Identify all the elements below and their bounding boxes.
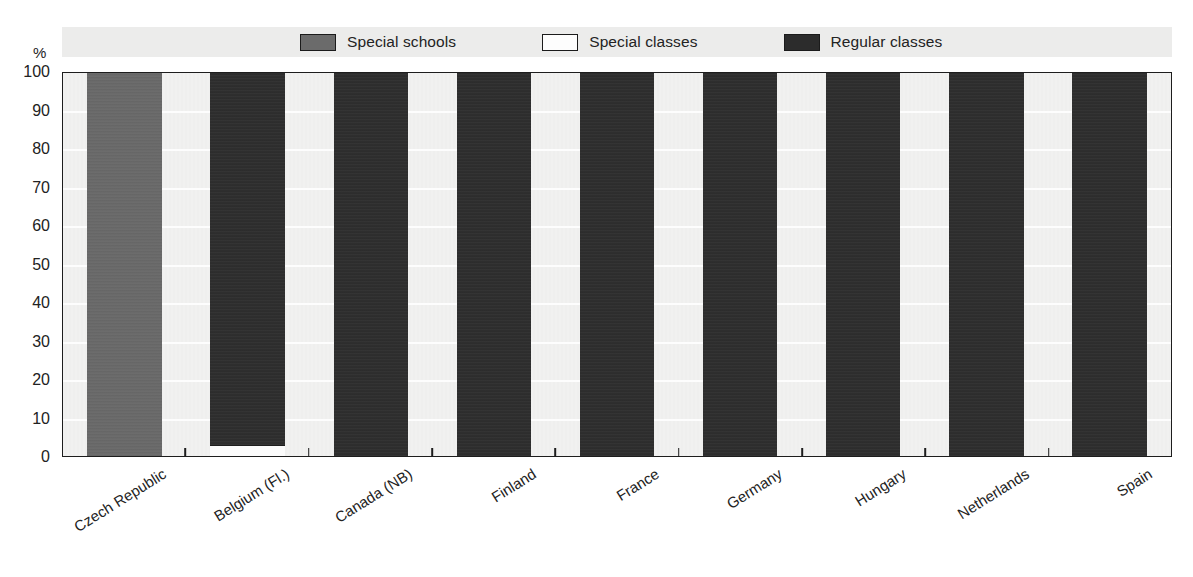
bar-segment[interactable] — [1072, 73, 1146, 456]
x-axis-category-label: Netherlands — [954, 465, 1032, 522]
bar-segment[interactable] — [580, 73, 654, 456]
bar-slot — [309, 73, 432, 456]
legend-item-label: Special classes — [589, 33, 697, 51]
x-axis-category-label-text: Spain — [1114, 465, 1156, 500]
y-axis-unit-label: % — [33, 44, 46, 61]
stacked-bar[interactable] — [87, 73, 161, 456]
stacked-bar[interactable] — [210, 73, 284, 456]
bars-layer — [63, 73, 1171, 456]
y-axis: 1009080706050403020100 — [0, 72, 62, 457]
x-axis-category-label-text: France — [613, 465, 662, 504]
bar-segment[interactable] — [457, 73, 531, 456]
y-axis-tick-label: 70 — [32, 179, 50, 197]
legend-item-label: Regular classes — [831, 33, 943, 51]
legend-item[interactable]: Special schools — [300, 33, 456, 51]
bar-segment[interactable] — [949, 73, 1023, 456]
y-axis-tick-label: 80 — [32, 140, 50, 158]
bar-segment[interactable] — [334, 73, 408, 456]
bar-segment[interactable] — [703, 73, 777, 456]
x-axis-category-label: Germany — [724, 465, 785, 512]
legend-item-label: Special schools — [347, 33, 456, 51]
y-axis-tick-label: 20 — [32, 371, 50, 389]
x-axis-category-label-text: Hungary — [852, 465, 909, 509]
bar-segment[interactable] — [826, 73, 900, 456]
legend-item[interactable]: Special classes — [542, 33, 697, 51]
y-axis-tick-label: 50 — [32, 256, 50, 274]
y-axis-tick-label: 0 — [41, 448, 50, 466]
stacked-bar[interactable] — [580, 73, 654, 456]
x-axis-category-label: Belgium (Fl.) — [211, 465, 292, 524]
bar-segment[interactable] — [210, 73, 284, 445]
bar-slot — [63, 73, 186, 456]
x-axis-category-label-text: Czech Republic — [71, 465, 169, 535]
bar-segment[interactable] — [87, 73, 161, 456]
stacked-bar[interactable] — [703, 73, 777, 456]
x-axis-category-label: Finland — [488, 465, 539, 505]
bar-slot — [802, 73, 925, 456]
bar-slot — [925, 73, 1048, 456]
x-axis-category-label-text: Finland — [488, 465, 539, 505]
stacked-bar[interactable] — [1072, 73, 1146, 456]
y-axis-tick-label: 100 — [23, 63, 50, 81]
chart-figure: Special schoolsSpecial classesRegular cl… — [0, 0, 1193, 577]
x-axis-category-label-text: Netherlands — [954, 465, 1032, 522]
plot-area — [62, 72, 1172, 457]
y-axis-tick-label: 30 — [32, 333, 50, 351]
x-axis-category-label: Canada (NB) — [332, 465, 415, 526]
x-axis-category-label: Hungary — [852, 465, 909, 509]
x-axis-category-label: Spain — [1114, 465, 1156, 500]
legend-swatch-icon — [542, 34, 578, 51]
legend-swatch-icon — [300, 34, 336, 51]
legend-item[interactable]: Regular classes — [784, 33, 943, 51]
chart-legend: Special schoolsSpecial classesRegular cl… — [62, 27, 1172, 57]
legend-swatch-icon — [784, 34, 820, 51]
bar-segment[interactable] — [210, 445, 284, 456]
y-axis-tick-label: 60 — [32, 217, 50, 235]
bar-slot — [1048, 73, 1171, 456]
x-axis-category-label-text: Belgium (Fl.) — [211, 465, 292, 524]
x-axis-labels: Czech RepublicBelgium (Fl.)Canada (NB)Fi… — [62, 457, 1172, 577]
bar-slot — [186, 73, 309, 456]
y-axis-tick-label: 90 — [32, 102, 50, 120]
stacked-bar[interactable] — [826, 73, 900, 456]
y-axis-tick-label: 10 — [32, 410, 50, 428]
x-axis-category-label: France — [613, 465, 662, 504]
x-axis-category-label-text: Germany — [724, 465, 785, 512]
stacked-bar[interactable] — [949, 73, 1023, 456]
bar-slot — [432, 73, 555, 456]
bar-slot — [555, 73, 678, 456]
stacked-bar[interactable] — [334, 73, 408, 456]
y-axis-tick-label: 40 — [32, 294, 50, 312]
bar-slot — [679, 73, 802, 456]
x-axis-category-label: Czech Republic — [71, 465, 169, 535]
x-axis-category-label-text: Canada (NB) — [332, 465, 415, 526]
stacked-bar[interactable] — [457, 73, 531, 456]
